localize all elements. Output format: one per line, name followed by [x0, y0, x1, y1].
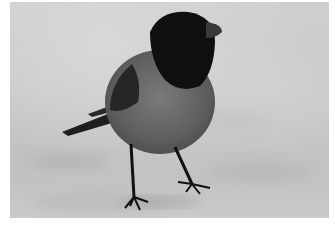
- bird-wing: [110, 64, 139, 111]
- bird-photo: [10, 2, 329, 218]
- bird-leg-right: [175, 147, 192, 184]
- bird-foot-right: [178, 182, 210, 194]
- bird-beak: [206, 22, 222, 38]
- bird-illustration: [10, 2, 329, 218]
- bird-leg-left: [131, 144, 134, 197]
